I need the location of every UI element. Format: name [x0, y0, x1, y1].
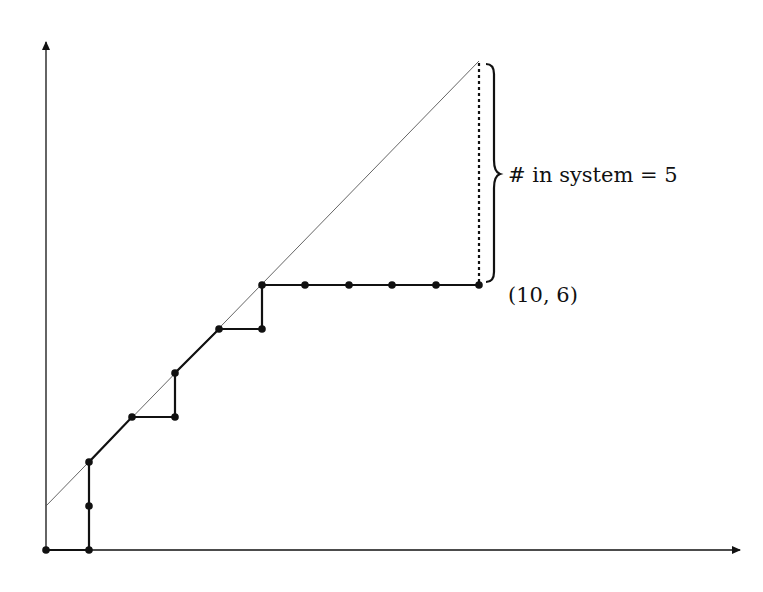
data-point [345, 281, 353, 289]
data-point [475, 281, 483, 289]
data-point [85, 458, 93, 466]
brace-label: # in system = 5 [508, 163, 678, 187]
data-point [128, 413, 136, 421]
data-point [85, 502, 93, 510]
data-point [258, 325, 266, 333]
staircase-path [46, 285, 479, 550]
queue-diagram [0, 0, 763, 592]
data-point [301, 281, 309, 289]
data-point [388, 281, 396, 289]
data-point [258, 281, 266, 289]
data-point [42, 546, 50, 554]
data-point [171, 413, 179, 421]
curly-brace [486, 64, 500, 282]
data-point [171, 369, 179, 377]
data-point [215, 325, 223, 333]
point-label: (10, 6) [508, 283, 578, 307]
data-point [85, 546, 93, 554]
data-point [432, 281, 440, 289]
